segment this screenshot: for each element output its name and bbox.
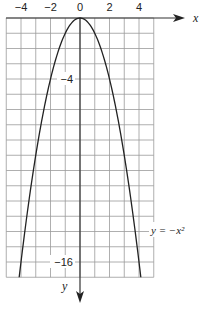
x-tick-label: 2 (106, 1, 112, 13)
y-tick-label: −4 (60, 73, 73, 85)
x-axis-label: x (192, 11, 199, 25)
x-tick-label: −2 (44, 1, 57, 13)
x-tick-label: 0 (77, 1, 83, 13)
x-tick-label: −4 (15, 1, 28, 13)
parabola-graph: −4−2024−4−16 x y y = −x² (0, 0, 204, 311)
y-tick-label: −16 (54, 256, 73, 268)
y-axis-label: y (61, 279, 68, 293)
tick-labels: −4−2024−4−16 (15, 1, 142, 268)
axes (6, 14, 185, 303)
curve-label: y = −x² (150, 224, 185, 236)
x-tick-label: 4 (136, 1, 142, 13)
